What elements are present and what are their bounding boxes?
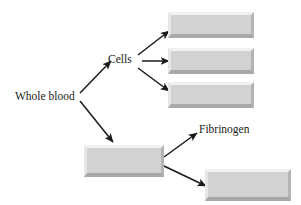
box-plasma-product[interactable] [205,169,291,201]
arrow-plasma-to-product [164,166,206,186]
box-cells-product-2[interactable] [168,48,254,74]
box-cells-product-1[interactable] [168,12,254,38]
arrow-cells-to-product-1 [138,31,169,55]
blood-composition-diagram: Whole blood Cells Fibrinogen [0,0,301,205]
box-cells-product-3[interactable] [168,82,254,108]
arrow-whole-blood-to-cells [80,61,111,93]
arrow-cells-to-product-3 [138,68,169,91]
arrow-plasma-to-fibrinogen [164,133,197,157]
label-cells: Cells [108,53,132,66]
label-whole-blood: Whole blood [15,90,75,103]
arrow-whole-blood-to-plasma [80,101,113,142]
label-fibrinogen: Fibrinogen [199,123,249,136]
box-plasma[interactable] [84,145,164,177]
